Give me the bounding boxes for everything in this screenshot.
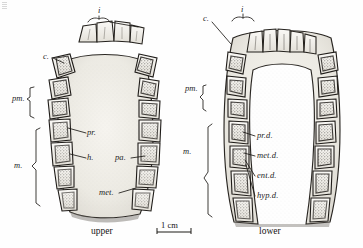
upper-label-met: met. <box>99 187 114 197</box>
caption-lower: lower <box>259 226 281 236</box>
lower-label-pm: pm. <box>185 83 198 93</box>
upper-label-pa: pa. <box>115 152 126 162</box>
upper-incisors <box>79 21 144 44</box>
dentition-illustration <box>0 0 363 248</box>
lower-label-pr-d: pr.d. <box>257 130 273 140</box>
upper-label-h: h. <box>87 152 94 162</box>
lower-label-c: c. <box>203 13 209 23</box>
lower-label-ent-d: ent.d. <box>257 170 276 180</box>
upper-label-c: c. <box>43 51 49 61</box>
lower-label-met-d: met.d. <box>257 150 278 160</box>
scale-bar-label: 1 cm <box>161 220 178 230</box>
upper-label-m: m. <box>14 160 22 170</box>
upper-label-pm: pm. <box>12 93 25 103</box>
caption-upper: upper <box>91 226 113 236</box>
lower-label-hyp-d: hyp.d. <box>257 190 278 200</box>
anatomical-figure: i c. pm. m. pr. h. pa. met. i c. pm. m. … <box>0 0 363 248</box>
lower-label-m: m. <box>183 146 191 156</box>
upper-label-i: i <box>98 5 100 15</box>
lower-label-i: i <box>241 4 243 14</box>
lower-jaw-group <box>224 29 340 227</box>
upper-label-pr: pr. <box>87 127 96 137</box>
